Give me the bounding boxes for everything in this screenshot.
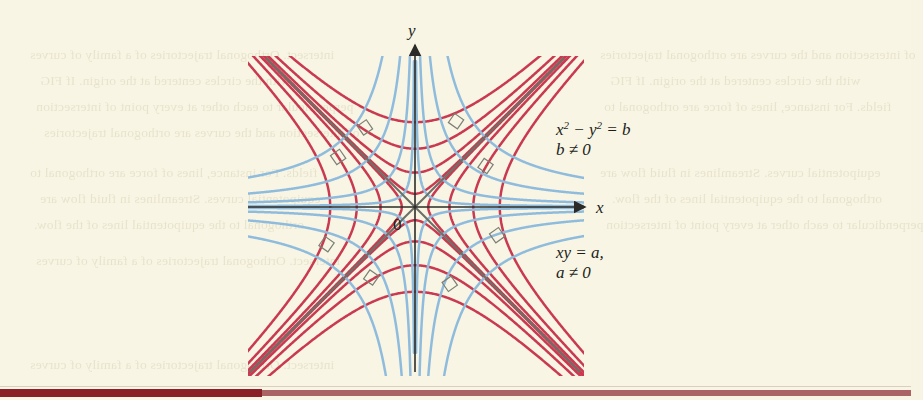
y-axis-label: y: [406, 21, 416, 40]
blue-hyperbola-branch: [427, 23, 624, 197]
blue-hyperbola-branch: [208, 23, 403, 196]
blue-family-equation: xy = a,: [555, 243, 604, 262]
bottom-rule-dark: [0, 389, 262, 397]
red-family-equation: x2 − y2 = b: [555, 119, 631, 139]
bottom-rule-light: [262, 390, 911, 396]
blue-hyperbola-branch: [441, 18, 624, 184]
origin-label: 0: [393, 215, 402, 234]
red-family-constraint: b ≠ 0: [556, 140, 591, 159]
blue-family-constraint: a ≠ 0: [556, 263, 591, 282]
page-hairline: [0, 386, 911, 387]
x-axis-label: x: [595, 198, 604, 217]
blue-hyperbola-branch: [208, 18, 389, 184]
